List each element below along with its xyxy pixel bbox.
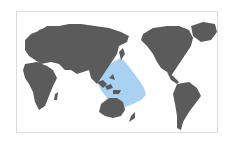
africa-landmass <box>23 62 57 110</box>
world-map <box>17 12 218 133</box>
new-zealand-landmass <box>129 112 135 122</box>
world-map-frame <box>16 11 218 133</box>
north-america-landmass <box>141 26 193 76</box>
madagascar-landmass <box>54 92 58 100</box>
australia-landmass <box>99 98 125 118</box>
greenland-landmass <box>191 22 217 42</box>
japan-landmass <box>119 48 125 60</box>
south-america-landmass <box>173 82 201 130</box>
central-america-landmass <box>167 72 179 84</box>
